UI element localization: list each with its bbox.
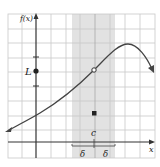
- y-axis-label: f(x): [19, 14, 33, 23]
- c-label: c: [91, 128, 96, 138]
- delta-left-label: δ: [80, 149, 85, 159]
- open-point-hole: [92, 68, 96, 72]
- x-axis-arrow-icon: [149, 140, 155, 145]
- limit-point-on-axis: [33, 68, 38, 73]
- x-axis-label: x: [149, 145, 154, 154]
- curve-left-arrow-icon: [5, 127, 12, 132]
- limit-diagram: f(x) L c δ δ x: [0, 0, 160, 167]
- limit-label: L: [24, 66, 32, 77]
- delta-right-label: δ: [103, 149, 108, 159]
- function-value-point: [92, 111, 97, 116]
